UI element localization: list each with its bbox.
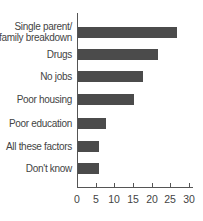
- category-label-all-factors: All these factors: [6, 141, 72, 152]
- x-tick: [189, 183, 190, 188]
- x-tick-label: 15: [123, 193, 143, 205]
- bar-poor-housing: [78, 94, 134, 105]
- bar-dont-know: [78, 163, 99, 174]
- category-label-line: Single parent/: [0, 21, 72, 32]
- bar-all-factors: [78, 141, 99, 152]
- bar-single-parent: [78, 27, 177, 38]
- category-label-poor-education: Poor education: [9, 118, 72, 129]
- x-tick-label: 5: [86, 193, 106, 205]
- bar-drugs: [78, 49, 158, 60]
- category-label-single-parent: Single parent/ family breakdown: [0, 21, 72, 43]
- category-label-dont-know: Don't know: [26, 163, 72, 174]
- category-label-no-jobs: No jobs: [40, 71, 72, 82]
- x-axis-line: [77, 187, 193, 188]
- x-tick: [152, 183, 153, 188]
- category-label-poor-housing: Poor housing: [17, 94, 72, 105]
- bar-poor-education: [78, 118, 106, 129]
- x-tick: [114, 183, 115, 188]
- x-tick-label: 10: [104, 193, 124, 205]
- x-tick: [96, 183, 97, 188]
- x-tick-label: 25: [160, 193, 180, 205]
- category-label-line: family breakdown: [0, 32, 72, 43]
- x-tick: [77, 183, 78, 188]
- bar-no-jobs: [78, 71, 143, 82]
- horizontal-bar-chart: Single parent/ family breakdown Drugs No…: [0, 0, 203, 221]
- x-tick: [133, 183, 134, 188]
- x-tick-label: 20: [142, 193, 162, 205]
- x-tick-label: 30: [179, 193, 199, 205]
- category-label-drugs: Drugs: [47, 49, 72, 60]
- x-tick: [170, 183, 171, 188]
- x-tick-label: 0: [67, 193, 87, 205]
